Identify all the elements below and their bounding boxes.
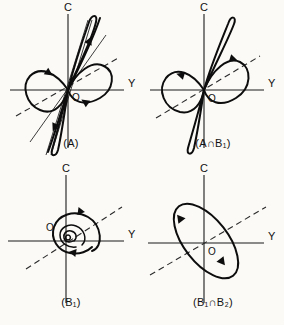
- origin-label: O: [72, 92, 80, 103]
- panel-a-caption-text: (A): [63, 137, 79, 149]
- ellipse-orbit: [162, 193, 251, 289]
- vertical-axis-label: C: [64, 1, 72, 13]
- vertical-axis-label: C: [200, 1, 208, 13]
- vertical-axis-label: C: [62, 163, 70, 174]
- panel-a-int-b1: C Y O (A∩B₁): [142, 0, 284, 162]
- panel-a-int-b1-caption: (A∩B₁): [142, 137, 284, 149]
- panel-b1-int-b2-caption-text: (B₁∩B₂): [193, 296, 233, 308]
- flow-arrow-2: [229, 54, 239, 64]
- panel-a-int-b1-caption-text: (A∩B₁): [195, 137, 230, 149]
- panel-b1-caption-text: (B₁): [61, 296, 81, 308]
- figure-page: C Y O (A) C Y O (A∩B: [0, 0, 284, 325]
- horizontal-axis-label: Y: [128, 77, 136, 89]
- horizontal-axis-label: Y: [268, 230, 276, 242]
- vertical-axis-label: C: [200, 163, 208, 174]
- panel-b1-caption: (B₁): [0, 296, 142, 308]
- panel-b1-int-b2: C Y O (B₁∩B₂): [142, 163, 284, 325]
- origin-label: O: [208, 93, 216, 104]
- origin-label: O: [208, 246, 216, 257]
- dashed-diagonal: [26, 207, 122, 269]
- horizontal-axis-label: Y: [268, 77, 276, 89]
- panel-b1: C Y O (B₁): [0, 163, 142, 325]
- flow-arrow-3: [44, 68, 55, 79]
- horizontal-axis-label: Y: [128, 228, 136, 240]
- spiral-orbit-core: [66, 235, 71, 240]
- panel-a-caption: (A): [0, 137, 142, 149]
- origin-label: O: [46, 222, 54, 233]
- panel-b1-int-b2-caption: (B₁∩B₂): [142, 296, 284, 308]
- dashed-diagonal: [150, 207, 266, 275]
- flow-arrow-2: [216, 256, 228, 268]
- panel-a: C Y O (A): [0, 0, 142, 162]
